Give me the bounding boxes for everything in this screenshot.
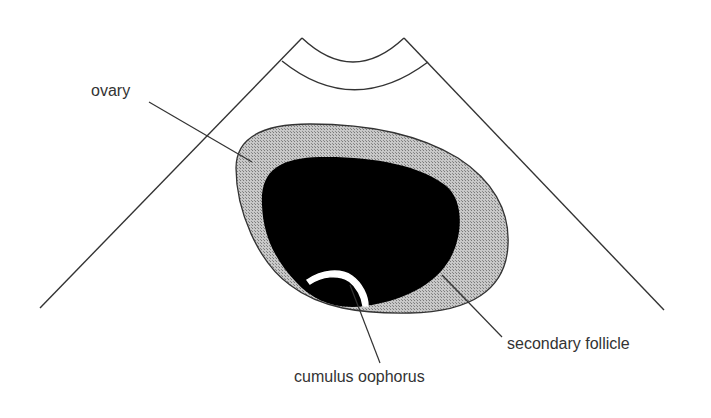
ultrasound-diagram [0, 0, 711, 418]
ovary-leader-line [149, 102, 252, 162]
label-cumulus-oophorus: cumulus oophorus [294, 368, 425, 386]
transducer-outer-arc [282, 61, 428, 90]
diagram-canvas: ovary secondary follicle cumulus oophoru… [0, 0, 711, 418]
label-secondary-follicle: secondary follicle [507, 335, 630, 353]
label-ovary: ovary [91, 82, 130, 100]
transducer-inner-arc [302, 38, 404, 62]
